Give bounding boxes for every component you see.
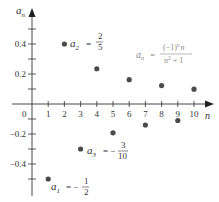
svg-text:n2+ 1: n2+ 1 bbox=[164, 55, 183, 65]
svg-text:=: = bbox=[150, 50, 155, 60]
svg-text:= −: = − bbox=[66, 182, 78, 192]
x-tick-label: 1 bbox=[46, 109, 51, 119]
svg-text:10: 10 bbox=[118, 151, 128, 161]
y-axis-label: an bbox=[16, 4, 26, 19]
svg-text:= −: = − bbox=[103, 146, 115, 156]
svg-text:2: 2 bbox=[98, 31, 103, 41]
annotation-a1: a1 = − 1 2 bbox=[51, 176, 89, 197]
x-tick-label: 9 bbox=[176, 109, 181, 119]
svg-text:=: = bbox=[86, 39, 91, 49]
data-point bbox=[110, 130, 115, 135]
x-axis-arrow-icon bbox=[205, 101, 214, 108]
svg-text:a1: a1 bbox=[51, 180, 60, 195]
annotation-a2: a2 = 2 5 bbox=[70, 31, 103, 52]
y-tick-label: 0.4 bbox=[15, 39, 27, 49]
svg-text:(−1)nn: (−1)nn bbox=[163, 42, 185, 52]
data-point bbox=[94, 66, 99, 71]
x-tick-label: 10 bbox=[190, 109, 200, 119]
x-tick-label: 7 bbox=[143, 109, 148, 119]
y-axis-arrow-icon bbox=[29, 8, 36, 17]
svg-text:5: 5 bbox=[98, 42, 103, 52]
x-tick-label: 2 bbox=[62, 109, 67, 119]
svg-text:1: 1 bbox=[84, 176, 89, 186]
svg-text:3: 3 bbox=[121, 140, 126, 150]
y-tick-label: 0.2 bbox=[15, 69, 26, 79]
svg-text:a2: a2 bbox=[70, 37, 80, 52]
data-point bbox=[143, 122, 148, 127]
data-point bbox=[62, 41, 67, 46]
data-point bbox=[175, 118, 180, 123]
x-tick-label: 4 bbox=[95, 109, 100, 119]
x-tick-label: 6 bbox=[127, 109, 132, 119]
x-tick-label: 5 bbox=[111, 109, 116, 119]
svg-text:a3: a3 bbox=[87, 144, 97, 159]
data-point bbox=[159, 83, 164, 88]
data-point bbox=[127, 77, 132, 82]
x-tick-label: 8 bbox=[159, 109, 164, 119]
data-point bbox=[78, 146, 83, 151]
sequence-formula: an = (−1)nn n2+ 1 bbox=[136, 42, 192, 65]
y-tick-label: −0.4 bbox=[10, 159, 27, 169]
data-point bbox=[191, 87, 196, 92]
svg-text:an: an bbox=[136, 49, 144, 61]
x-axis-label: n bbox=[205, 110, 210, 121]
origin-label: 0 bbox=[22, 109, 27, 119]
y-tick-label: −0.2 bbox=[10, 129, 26, 139]
annotation-a3: a3 = − 3 10 bbox=[87, 140, 128, 161]
x-tick-label: 3 bbox=[78, 109, 83, 119]
svg-text:2: 2 bbox=[84, 187, 89, 197]
sequence-scatter-chart: 12345678910 0.40.2−0.2−0.4 an n 0 a2 = 2… bbox=[0, 0, 219, 202]
